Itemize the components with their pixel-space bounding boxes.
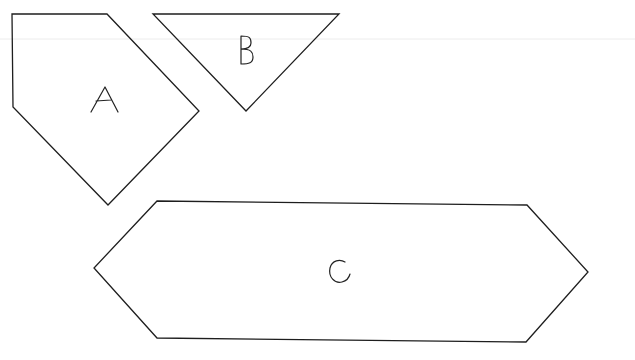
shape-b: B [153, 14, 339, 111]
shapes-diagram: A B C [0, 0, 635, 360]
shape-a-outline [12, 14, 199, 205]
shape-c-outline [94, 201, 588, 342]
shape-a-label: A [91, 87, 118, 112]
shape-b-outline [153, 14, 339, 111]
shape-a: A [12, 14, 199, 205]
shape-c-label: C [330, 260, 350, 282]
shape-b-label: B [241, 36, 253, 64]
shape-c: C [94, 201, 588, 342]
